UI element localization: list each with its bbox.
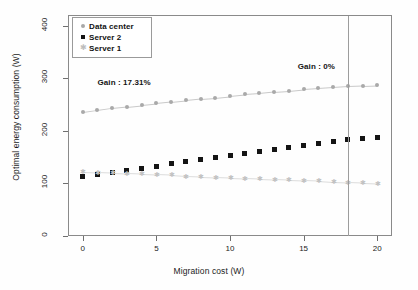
data-point-server-2 [301,143,306,148]
y-tick-label: 100 [40,169,49,195]
data-point-server-1: ✱ [331,179,336,184]
data-point-server-1: ✱ [360,180,365,185]
legend-item-server-1[interactable]: ✱ Server 1 [76,43,147,53]
y-tick-mark [63,183,68,184]
data-point-server-1: ✱ [183,174,188,179]
y-tick-mark [63,131,68,132]
x-tick-label: 10 [218,244,242,253]
data-point-server-1: ✱ [139,171,144,176]
legend-label-server-1: Server 1 [89,44,121,53]
data-point-server-1: ✱ [257,176,262,181]
x-tick-mark [156,236,157,241]
y-tick-mark [63,26,68,27]
data-point-data-center [302,87,306,91]
data-point-data-center [125,105,129,109]
legend-item-server-2[interactable]: Server 2 [76,32,147,42]
data-point-server-1: ✱ [316,178,321,183]
y-tick-mark [63,78,68,79]
chart-figure: 0100200300400 05101520 ✱✱✱✱✱✱✱✱✱✱✱✱✱✱✱✱✱… [0,0,418,290]
annotation-gain-right: Gain : 0% [298,62,335,71]
x-axis-label: Migration cost (W) [0,266,418,276]
legend-label-server-2: Server 2 [89,33,121,42]
data-point-server-2 [169,161,174,166]
data-point-server-1: ✱ [110,170,115,175]
data-point-data-center [287,89,291,93]
vertical-reference-line [348,16,349,236]
data-point-data-center [361,84,365,88]
data-point-server-2 [316,141,321,146]
data-point-server-2 [331,139,336,144]
y-tick-label: 200 [40,116,49,142]
data-point-server-1: ✱ [301,178,306,183]
data-point-server-1: ✱ [154,172,159,177]
x-tick-mark [230,236,231,241]
x-tick-mark [304,236,305,241]
data-point-server-2 [198,157,203,162]
y-tick-label: 0 [40,222,49,248]
circle-icon [76,21,89,31]
data-point-server-2 [154,164,159,169]
data-point-server-1: ✱ [242,176,247,181]
data-point-server-1: ✱ [228,175,233,180]
square-icon [76,32,89,42]
data-point-server-2 [360,136,365,141]
data-point-data-center [169,100,173,104]
data-point-server-2 [183,159,188,164]
data-point-server-1: ✱ [124,171,129,176]
data-point-server-2 [375,135,380,140]
data-point-server-1: ✱ [375,181,380,186]
chart-legend: Data center Server 2 ✱ Server 1 [72,17,152,58]
data-point-data-center [213,96,217,100]
data-point-server-2 [257,149,262,154]
data-point-data-center [228,94,232,98]
x-tick-label: 0 [71,244,95,253]
data-point-data-center [272,90,276,94]
y-axis-label: Optimal energy consumption (W) [11,17,21,217]
legend-label-data-center: Data center [89,22,134,31]
cross-icon: ✱ [76,43,89,53]
data-point-server-1: ✱ [272,177,277,182]
data-point-server-1: ✱ [286,177,291,182]
data-point-server-1: ✱ [95,170,100,175]
y-tick-label: 300 [40,64,49,90]
data-point-server-1: ✱ [213,175,218,180]
data-point-server-1: ✱ [198,174,203,179]
y-tick-mark [63,236,68,237]
data-point-server-2 [213,155,218,160]
data-point-server-2 [286,145,291,150]
data-point-data-center [199,97,203,101]
y-tick-label: 400 [40,11,49,37]
x-tick-mark [377,236,378,241]
data-point-server-2 [228,153,233,158]
data-point-server-1: ✱ [80,169,85,174]
x-tick-label: 20 [365,244,389,253]
data-point-server-2 [272,147,277,152]
x-tick-label: 5 [144,244,168,253]
annotation-gain-left: Gain : 17.31% [97,78,150,87]
legend-item-data-center[interactable]: Data center [76,21,147,31]
x-tick-label: 15 [292,244,316,253]
x-tick-mark [83,236,84,241]
data-point-server-1: ✱ [169,172,174,177]
data-point-data-center [140,103,144,107]
data-point-server-2 [242,151,247,156]
